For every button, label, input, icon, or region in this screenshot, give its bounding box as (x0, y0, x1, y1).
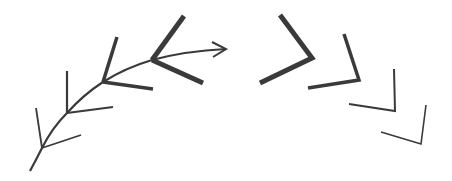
chevron-sequence (260, 15, 426, 144)
chevron-2 (308, 34, 359, 88)
arrow-shaft (30, 49, 226, 171)
feather-arrow-diagram (0, 0, 452, 181)
branch-4 (152, 16, 203, 83)
feather-arrow (30, 16, 226, 171)
chevron-1 (260, 15, 312, 83)
branch-1 (36, 108, 81, 148)
